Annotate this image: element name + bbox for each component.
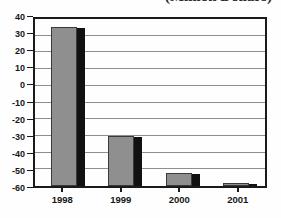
x-tick [237, 188, 239, 192]
x-tick [178, 188, 180, 192]
x-axis-label: 1999 [110, 194, 131, 205]
y-tick [27, 153, 33, 154]
x-tick [61, 188, 63, 192]
y-tick [27, 50, 33, 51]
y-axis-label: 20 [15, 46, 25, 57]
y-tick [27, 136, 33, 137]
y-axis-label: -20 [12, 114, 25, 125]
y-tick [27, 187, 33, 188]
bar-chart: (Million Dollars) 403020100-10-20-30-40-… [0, 0, 281, 218]
bar-shadow [192, 174, 200, 186]
y-axis-label: 10 [15, 63, 25, 74]
y-tick [27, 67, 33, 68]
plot-area [33, 17, 267, 188]
x-tick [120, 188, 122, 192]
x-axis-label: 1998 [52, 194, 73, 205]
bar-shadow [77, 28, 85, 186]
x-axis: 1998199920002001 [33, 188, 267, 216]
bar-fill [166, 173, 192, 186]
y-tick [27, 119, 33, 120]
y-tick [27, 102, 33, 103]
bar-fill [51, 27, 77, 186]
bar [51, 27, 77, 186]
bar [108, 136, 134, 186]
y-axis-labels: 403020100-10-20-30-40-50-60 [0, 17, 27, 188]
y-axis-label: -10 [12, 97, 25, 108]
y-axis-label: -30 [12, 131, 25, 142]
y-axis-label: -40 [12, 148, 25, 159]
y-axis-label: 30 [15, 29, 25, 40]
chart-title: (Million Dollars) [0, 0, 272, 5]
bar-fill [108, 136, 134, 186]
y-axis-label: -60 [12, 183, 25, 194]
bar-fill [223, 183, 249, 186]
y-tick [27, 16, 33, 17]
y-tick [27, 84, 33, 85]
bar-shadow [249, 184, 257, 186]
y-tick [27, 170, 33, 171]
bar [166, 173, 192, 186]
x-axis-label: 2001 [227, 194, 248, 205]
y-axis-label: 40 [15, 12, 25, 23]
bar-shadow [134, 137, 142, 186]
bar [223, 183, 249, 186]
x-axis-label: 2000 [169, 194, 190, 205]
y-tick [27, 33, 33, 34]
y-axis-label: 0 [20, 80, 25, 91]
y-axis-label: -50 [12, 165, 25, 176]
